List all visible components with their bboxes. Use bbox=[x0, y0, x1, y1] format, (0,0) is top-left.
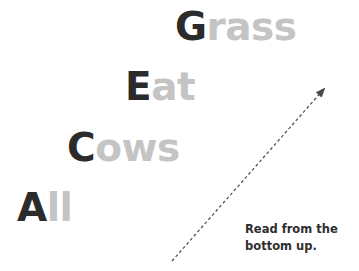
caption-line-1: Read from the bbox=[245, 221, 338, 238]
caption: Read from the bottom up. bbox=[245, 221, 338, 255]
caption-line-2: bottom up. bbox=[245, 238, 338, 255]
